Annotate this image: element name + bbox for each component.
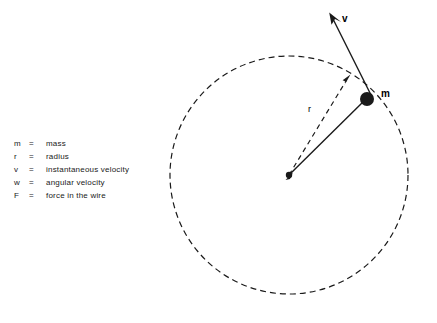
legend-symbol-force: F bbox=[14, 191, 29, 200]
radius-arrowhead-icon bbox=[343, 75, 351, 86]
velocity-label: v bbox=[342, 13, 348, 24]
legend-description-force: force in the wire bbox=[46, 191, 204, 200]
radius-label: r bbox=[308, 104, 311, 114]
legend-symbol-angular-velocity: w bbox=[14, 178, 29, 187]
physics-diagram-figure: v r m m = mass r = radius v = instantane… bbox=[0, 0, 437, 323]
legend-equals-force: = bbox=[29, 191, 46, 200]
legend-description-mass: mass bbox=[46, 139, 204, 148]
legend-description-angular-velocity: angular velocity bbox=[46, 178, 204, 187]
legend-description-radius: radius bbox=[46, 152, 204, 161]
legend-equals-velocity: = bbox=[29, 165, 46, 174]
velocity-vector-line bbox=[334, 20, 372, 95]
legend-symbol-velocity: v bbox=[14, 165, 29, 174]
legend-row-mass: m = mass bbox=[14, 139, 204, 152]
legend-row-force: F = force in the wire bbox=[14, 191, 204, 204]
legend-description-velocity: instantaneous velocity bbox=[46, 165, 204, 174]
legend-row-angular-velocity: w = angular velocity bbox=[14, 178, 204, 191]
legend: m = mass r = radius v = instantaneous ve… bbox=[14, 139, 204, 204]
legend-symbol-mass: m bbox=[14, 139, 29, 148]
legend-symbol-radius: r bbox=[14, 152, 29, 161]
legend-equals-mass: = bbox=[29, 139, 46, 148]
legend-equals-radius: = bbox=[29, 152, 46, 161]
legend-equals-angular-velocity: = bbox=[29, 178, 46, 187]
mass-label: m bbox=[381, 88, 390, 99]
legend-row-radius: r = radius bbox=[14, 152, 204, 165]
legend-row-velocity: v = instantaneous velocity bbox=[14, 165, 204, 178]
mass-particle-dot bbox=[360, 92, 374, 106]
